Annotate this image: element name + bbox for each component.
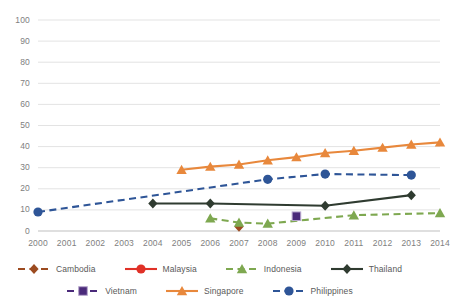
- data-point-marker: [407, 170, 416, 179]
- legend-label: Philippines: [311, 286, 353, 296]
- data-point-marker: [292, 212, 301, 221]
- legend-label: Singapore: [204, 286, 244, 296]
- y-tick-label: 50: [4, 120, 30, 130]
- series-indonesia: [205, 208, 445, 228]
- legend-swatch-malaysia: [124, 263, 158, 275]
- y-tick-label: 80: [4, 57, 30, 67]
- legend-item-singapore[interactable]: Singapore: [165, 285, 244, 297]
- legend-item-thailand[interactable]: Thailand: [330, 263, 402, 275]
- series-vietnam: [292, 212, 301, 221]
- data-point-marker: [321, 201, 330, 211]
- data-point-marker: [284, 286, 293, 295]
- data-point-marker: [407, 190, 416, 200]
- series-thailand: [148, 190, 416, 211]
- data-point-marker: [148, 199, 157, 209]
- legend-row: VietnamSingaporePhilippines: [0, 280, 447, 302]
- legend-label: Cambodia: [56, 264, 96, 274]
- data-point-marker: [206, 199, 215, 209]
- data-point-marker: [342, 264, 351, 274]
- x-tick-label: 2014: [425, 238, 454, 248]
- legend-swatch-vietnam: [66, 285, 100, 297]
- legend-item-malaysia[interactable]: Malaysia: [124, 263, 197, 275]
- x-tick-label: 2002: [80, 238, 110, 248]
- data-point-marker: [29, 264, 38, 274]
- series-line: [210, 213, 440, 224]
- data-point-marker: [136, 264, 145, 273]
- x-tick-label: 2004: [138, 238, 168, 248]
- x-tick-label: 2007: [224, 238, 254, 248]
- legend-label: Vietnam: [105, 286, 137, 296]
- y-tick-label: 70: [4, 78, 30, 88]
- legend-swatch-thailand: [330, 263, 364, 275]
- legend-item-philippines[interactable]: Philippines: [272, 285, 353, 297]
- legend-label: Thailand: [369, 264, 402, 274]
- legend-swatch-philippines: [272, 285, 306, 297]
- y-tick-label: 10: [4, 204, 30, 214]
- y-tick-label: 60: [4, 99, 30, 109]
- x-tick-label: 2006: [195, 238, 225, 248]
- legend-swatch-cambodia: [17, 263, 51, 275]
- x-tick-label: 2012: [368, 238, 398, 248]
- data-point-marker: [33, 207, 42, 216]
- data-point-marker: [321, 169, 330, 178]
- chart-legend: CambodiaMalaysiaIndonesiaThailandVietnam…: [0, 258, 447, 302]
- y-tick-label: 30: [4, 162, 30, 172]
- x-tick-label: 2001: [52, 238, 82, 248]
- x-tick-label: 2010: [310, 238, 340, 248]
- x-tick-label: 2000: [23, 238, 53, 248]
- legend-swatch-indonesia: [225, 263, 259, 275]
- y-tick-label: 0: [4, 226, 30, 236]
- legend-label: Indonesia: [264, 264, 302, 274]
- legend-item-cambodia[interactable]: Cambodia: [17, 263, 96, 275]
- legend-row: CambodiaMalaysiaIndonesiaThailand: [0, 258, 447, 280]
- x-tick-label: 2005: [167, 238, 197, 248]
- legend-item-vietnam[interactable]: Vietnam: [66, 285, 137, 297]
- series-singapore: [176, 137, 445, 174]
- y-tick-label: 100: [4, 15, 30, 25]
- x-tick-label: 2008: [253, 238, 283, 248]
- x-tick-label: 2011: [339, 238, 369, 248]
- series-line: [153, 195, 411, 206]
- legend-swatch-singapore: [165, 285, 199, 297]
- data-point-marker: [79, 287, 88, 296]
- x-tick-label: 2003: [109, 238, 139, 248]
- series-line: [38, 174, 411, 212]
- data-point-marker: [263, 175, 272, 184]
- y-tick-label: 90: [4, 36, 30, 46]
- y-tick-label: 40: [4, 141, 30, 151]
- x-tick-label: 2009: [281, 238, 311, 248]
- y-tick-label: 20: [4, 183, 30, 193]
- legend-label: Malaysia: [163, 264, 197, 274]
- x-tick-label: 2013: [396, 238, 426, 248]
- legend-item-indonesia[interactable]: Indonesia: [225, 263, 302, 275]
